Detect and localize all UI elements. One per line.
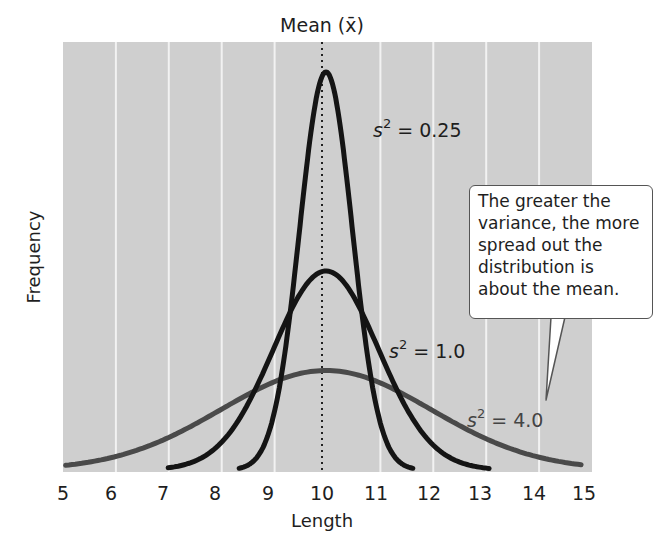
x-tick: 5 [57,482,69,504]
s-symbol: s [389,340,399,362]
x-tick: 8 [209,482,221,504]
callout-line: variance, the more [478,212,646,234]
callout-line: The greater the [478,190,646,212]
x-axis-label: Length [291,510,353,531]
y-axis-label: Frequency [23,210,44,303]
superscript: 2 [477,406,485,421]
label-value: = 4.0 [485,409,543,431]
x-tick-labels: 5 6 7 8 9 10 11 12 13 14 15 [57,482,596,504]
mean-title: Mean (x̄) [280,14,364,36]
label-value: = 0.25 [391,119,461,141]
callout-line: distribution is [478,256,646,278]
x-tick: 6 [105,482,117,504]
s-symbol: s [373,119,383,141]
x-tick: 9 [262,482,274,504]
x-tick: 15 [572,482,596,504]
superscript: 2 [383,116,391,131]
annotation-callout: The greater the variance, the more sprea… [469,185,653,319]
x-tick: 13 [468,482,492,504]
callout-line: spread out the [478,234,646,256]
x-tick: 14 [522,482,546,504]
x-tick: 12 [417,482,441,504]
x-tick: 11 [364,482,388,504]
x-tick: 7 [157,482,169,504]
superscript: 2 [399,337,407,352]
callout-line: about the mean. [478,278,646,300]
label-value: = 1.0 [407,340,465,362]
s-symbol: s [467,409,477,431]
x-tick: 10 [310,482,334,504]
